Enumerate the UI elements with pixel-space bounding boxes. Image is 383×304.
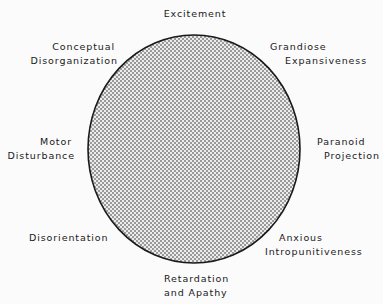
hatched-circle <box>88 35 300 263</box>
label-grandiose-expansiveness: Grandiose Expansiveness <box>270 40 367 68</box>
label-line: Disorientation <box>29 231 108 245</box>
label-disorientation: Disorientation <box>29 231 108 245</box>
label-line: Motor <box>2 135 75 149</box>
label-excitement: Excitement <box>150 7 240 21</box>
label-line: Intropunitiveness <box>265 245 363 259</box>
label-line: Retardation <box>164 272 229 286</box>
label-line: Expansiveness <box>270 54 367 68</box>
label-line: Conceptual <box>20 40 118 54</box>
label-line: Excitement <box>150 7 240 21</box>
label-anxious-intropunitiveness: Anxious Intropunitiveness <box>265 231 363 259</box>
label-paranoid-projection: Paranoid Projection <box>317 135 380 163</box>
label-line: Disorganization <box>16 54 118 68</box>
label-motor-disturbance: Motor Disturbance <box>2 135 75 163</box>
label-line: and Apathy <box>164 286 229 300</box>
label-retardation-and-apathy: Retardation and Apathy <box>164 272 229 300</box>
label-conceptual-disorganization: Conceptual Disorganization <box>20 40 118 68</box>
label-line: Disturbance <box>2 149 75 163</box>
label-line: Projection <box>317 149 380 163</box>
label-line: Anxious <box>265 231 363 245</box>
label-line: Grandiose <box>270 40 367 54</box>
label-line: Paranoid <box>317 135 380 149</box>
